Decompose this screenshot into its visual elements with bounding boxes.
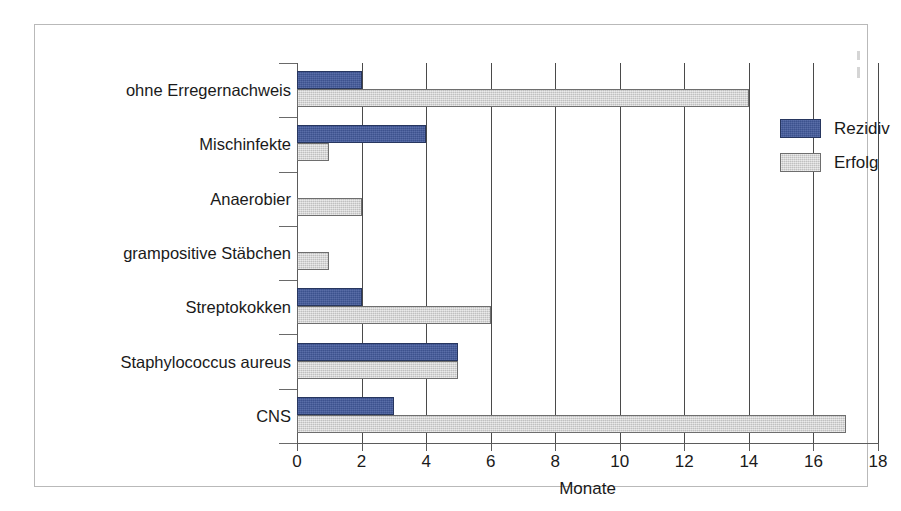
xtick-10 xyxy=(620,443,621,451)
xtick-label-4: 4 xyxy=(406,453,446,470)
xtick-4 xyxy=(426,443,427,451)
xtick-label-16: 16 xyxy=(793,453,833,470)
xtick-14 xyxy=(749,443,750,451)
category-tick-1 xyxy=(279,172,297,173)
bar-erfolg-4 xyxy=(297,306,491,324)
bar-erfolg-0 xyxy=(297,89,749,107)
bar-rezidiv-1 xyxy=(297,125,426,143)
xtick-8 xyxy=(555,443,556,451)
xtick-label-8: 8 xyxy=(535,453,575,470)
xtick-label-10: 10 xyxy=(600,453,640,470)
bar-rezidiv-0 xyxy=(297,71,362,89)
chart-legend: RezidivErfolg xyxy=(780,111,890,179)
gridline-14 xyxy=(749,63,750,443)
category-tick-top xyxy=(279,63,297,64)
xtick-label-2: 2 xyxy=(342,453,382,470)
category-axis-labels: ohne ErregernachweisMischinfekteAnaerobi… xyxy=(75,63,291,443)
bar-rezidiv-6 xyxy=(297,397,394,415)
legend-item-rezidiv: Rezidiv xyxy=(780,111,890,145)
xtick-18 xyxy=(878,443,879,451)
legend-swatch-rezidiv xyxy=(780,119,821,138)
gridline-10 xyxy=(620,63,621,443)
xtick-label-6: 6 xyxy=(471,453,511,470)
legend-swatch-erfolg xyxy=(780,153,821,172)
gridline-12 xyxy=(684,63,685,443)
bar-rezidiv-5 xyxy=(297,343,458,361)
category-tick-3 xyxy=(279,280,297,281)
bar-erfolg-3 xyxy=(297,252,329,270)
xtick-6 xyxy=(491,443,492,451)
gridline-2 xyxy=(362,63,363,443)
category-label-4: Streptokokken xyxy=(186,299,291,316)
legend-label-erfolg: Erfolg xyxy=(834,154,878,171)
xtick-label-0: 0 xyxy=(277,453,317,470)
category-tick-4 xyxy=(279,334,297,335)
category-label-0: ohne Erregernachweis xyxy=(126,82,291,99)
category-tick-5 xyxy=(279,389,297,390)
bar-erfolg-5 xyxy=(297,361,458,379)
gridline-4 xyxy=(426,63,427,443)
legend-item-erfolg: Erfolg xyxy=(780,145,890,179)
xtick-label-18: 18 xyxy=(858,453,898,470)
figure-frame: ohne ErregernachweisMischinfekteAnaerobi… xyxy=(34,24,868,487)
xtick-12 xyxy=(684,443,685,451)
page-edge-scan-artifact xyxy=(853,51,867,85)
xtick-16 xyxy=(813,443,814,451)
category-tick-2 xyxy=(279,226,297,227)
category-tick-6 xyxy=(279,443,297,444)
bar-rezidiv-4 xyxy=(297,288,362,306)
category-tick-0 xyxy=(279,117,297,118)
bar-erfolg-1 xyxy=(297,143,329,161)
xtick-0 xyxy=(297,443,298,451)
category-label-2: Anaerobier xyxy=(210,191,291,208)
bar-erfolg-6 xyxy=(297,415,846,433)
category-label-5: Staphylococcus aureus xyxy=(120,354,291,371)
xtick-2 xyxy=(362,443,363,451)
value-axis-line xyxy=(297,443,879,444)
xtick-label-12: 12 xyxy=(664,453,704,470)
xtick-label-14: 14 xyxy=(729,453,769,470)
bar-erfolg-2 xyxy=(297,198,362,216)
axis-title-monate: Monate xyxy=(297,480,878,497)
legend-label-rezidiv: Rezidiv xyxy=(834,120,890,137)
gridline-6 xyxy=(491,63,492,443)
category-label-6: CNS xyxy=(256,408,291,425)
category-label-1: Mischinfekte xyxy=(199,136,291,153)
gridline-8 xyxy=(555,63,556,443)
category-label-3: grampositive Stäbchen xyxy=(123,245,291,262)
